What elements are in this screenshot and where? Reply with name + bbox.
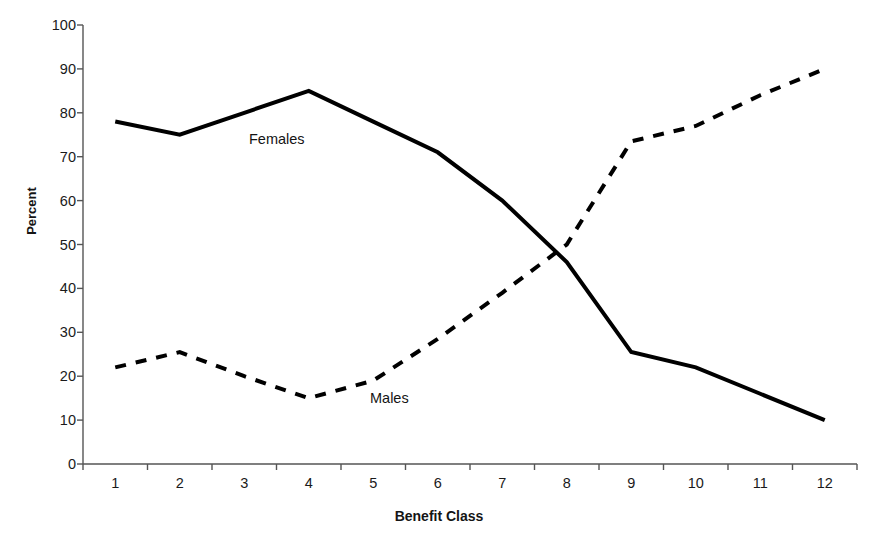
series-lines (115, 69, 825, 420)
series-line-females (115, 91, 825, 420)
series-line-males (115, 69, 825, 398)
axis-tick-marks (77, 25, 857, 470)
chart-container: Percent 0102030405060708090100 123456789… (0, 0, 878, 548)
axis-lines (83, 25, 857, 464)
plot-area (0, 0, 878, 548)
